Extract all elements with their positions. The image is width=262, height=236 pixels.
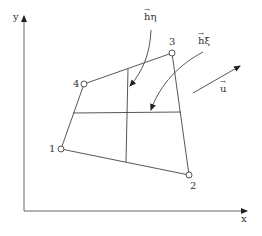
edge-4-1 [61,84,84,149]
h-eta-pointer [130,30,151,86]
quadrilateral-element-diagram [0,0,262,236]
vector-arrow-icon: → [144,7,150,14]
node-3 [169,50,175,56]
node-3-label: 3 [169,37,175,47]
vector-arrow-icon: → [198,31,204,38]
node-1-label: 1 [49,144,55,154]
u-vector-arrow [193,66,240,93]
node-4-label: 4 [73,79,79,89]
element-edges [61,53,189,175]
node-2-label: 2 [190,181,196,191]
y-axis-label: y [13,12,19,22]
node-1 [58,146,64,152]
vector-arrow-icon: → [220,79,226,86]
h-eta-label: → hη [144,12,156,22]
edge-1-2 [61,149,189,175]
h-xi-pointer [151,52,203,110]
h-xi-label: → hξ [198,36,210,46]
x-axis-label: x [241,214,247,224]
edge-2-3 [172,53,189,175]
node-2 [186,172,192,178]
node-4 [81,81,87,87]
u-label: → u [220,84,226,94]
eta-midline [126,69,128,162]
